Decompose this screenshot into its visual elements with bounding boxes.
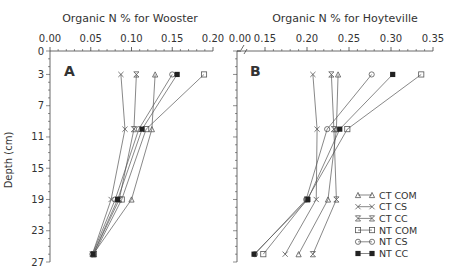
x-tick-label: 0.15	[254, 33, 276, 44]
y-tick-label: 15	[31, 163, 44, 174]
x-tick-label: 0.30	[380, 33, 402, 44]
y-tick-label: 0	[38, 46, 44, 57]
x-tick-label: 0.35	[422, 33, 444, 44]
figure: Organic N % for Wooster Organic N % for …	[0, 0, 464, 276]
panel-a-plot: 0.000.050.100.150.200371115192327	[31, 33, 224, 268]
legend: CT COMCT CSCT CCNT COMNT CSNT CC	[355, 190, 417, 260]
x-tick-label: 0.25	[338, 33, 360, 44]
legend-entry: CT CS	[379, 201, 407, 212]
legend-entry: NT CC	[379, 248, 409, 259]
legend-entry: CT CC	[379, 213, 408, 224]
legend-entry: CT COM	[379, 190, 417, 201]
y-tick-label: 3	[38, 69, 44, 80]
panel-b-label: B	[250, 63, 261, 79]
x-tick-label: 0.10	[120, 33, 142, 44]
y-tick-label: 11	[31, 131, 44, 142]
series-line	[285, 74, 317, 254]
y-tick-label: 27	[31, 257, 44, 268]
y-tick-label: 7	[38, 100, 44, 111]
y-axis-label: Depth (cm)	[3, 132, 14, 189]
x-tick-label: 0.20	[202, 33, 224, 44]
x-tick-label: 0.15	[161, 33, 183, 44]
x-tick-label: 0.00	[229, 33, 251, 44]
y-tick-label: 23	[31, 225, 44, 236]
chart-canvas: Organic N % for Wooster Organic N % for …	[0, 0, 464, 276]
legend-entry: NT CS	[379, 236, 408, 247]
legend-entry: NT COM	[379, 225, 417, 236]
panel-b-title: Organic N % for Hoyteville	[272, 12, 418, 25]
panel-a-title: Organic N % for Wooster	[62, 12, 198, 25]
x-tick-label: 0.00	[39, 33, 61, 44]
y-tick-label: 19	[31, 194, 44, 205]
x-tick-label: 0.20	[296, 33, 318, 44]
panel-a-label: A	[64, 63, 75, 79]
series-line	[94, 74, 204, 254]
x-tick-label: 0.05	[80, 33, 102, 44]
series-line	[92, 74, 125, 254]
series-line	[299, 74, 338, 254]
series-line	[93, 74, 155, 254]
